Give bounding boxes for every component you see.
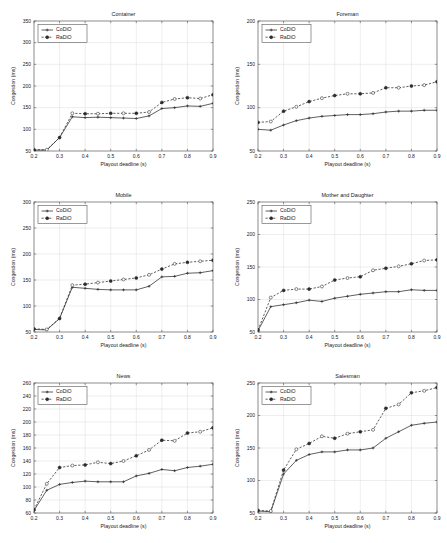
chart-title: Container bbox=[112, 11, 136, 17]
series-markers-codio bbox=[257, 288, 439, 332]
legend-label-codio: CoDiO bbox=[56, 388, 72, 394]
x-tick-label: 0.2 bbox=[255, 334, 262, 340]
series-line-codio bbox=[34, 103, 213, 150]
x-tick-label: 0.9 bbox=[210, 153, 217, 159]
x-tick-label: 0.4 bbox=[306, 334, 313, 340]
legend-label-codio: CoDiO bbox=[56, 26, 72, 32]
x-tick-label: 0.8 bbox=[408, 334, 415, 340]
plot-data bbox=[33, 93, 215, 151]
chart-legend: CoDiORaDiO bbox=[38, 25, 87, 43]
y-tick-label: 200 bbox=[23, 251, 32, 257]
chart-legend: CoDiORaDiO bbox=[38, 206, 87, 224]
legend-label-radio: RaDiO bbox=[56, 215, 72, 221]
y-tick-label: 140 bbox=[23, 458, 32, 464]
x-tick-label: 0.2 bbox=[31, 334, 38, 340]
figure-container: Container501001502002503003500.20.30.40.… bbox=[0, 0, 447, 543]
chart-panel-news: News60801001201401601802002202402600.20.… bbox=[0, 362, 223, 543]
x-tick-label: 0.5 bbox=[107, 153, 114, 159]
y-axis-label: Congestion (ms) bbox=[10, 248, 16, 286]
legend-label-radio: RaDiO bbox=[280, 215, 296, 221]
y-tick-label: 150 bbox=[23, 104, 32, 110]
chart-legend: CoDiORaDiO bbox=[262, 387, 311, 405]
x-tick-label: 0.4 bbox=[82, 153, 89, 159]
x-axis-label: Playout deadline (s) bbox=[325, 523, 371, 529]
x-tick-label: 0.9 bbox=[434, 515, 441, 521]
chart-legend: CoDiORaDiO bbox=[262, 25, 311, 43]
x-tick-label: 0.5 bbox=[331, 153, 338, 159]
series-line-radio bbox=[258, 82, 437, 123]
x-tick-label: 0.8 bbox=[184, 515, 191, 521]
x-tick-label: 0.4 bbox=[82, 515, 89, 521]
x-tick-label: 0.7 bbox=[382, 334, 389, 340]
y-tick-label: 80 bbox=[25, 497, 31, 503]
y-tick-label: 260 bbox=[23, 380, 32, 386]
y-tick-label: 200 bbox=[247, 231, 256, 237]
y-tick-label: 160 bbox=[23, 445, 32, 451]
chart-legend: CoDiORaDiO bbox=[38, 387, 87, 405]
x-tick-label: 0.6 bbox=[357, 334, 364, 340]
legend-label-radio: RaDiO bbox=[280, 396, 296, 402]
y-tick-label: 200 bbox=[23, 419, 32, 425]
x-tick-label: 0.2 bbox=[31, 515, 38, 521]
y-tick-label: 300 bbox=[23, 39, 32, 45]
x-tick-label: 0.2 bbox=[31, 153, 38, 159]
x-tick-label: 0.8 bbox=[408, 153, 415, 159]
y-tick-label: 240 bbox=[23, 393, 32, 399]
x-tick-label: 0.5 bbox=[331, 515, 338, 521]
x-tick-label: 0.3 bbox=[280, 334, 287, 340]
x-tick-label: 0.9 bbox=[210, 334, 217, 340]
series-line-radio bbox=[34, 428, 213, 510]
chart-legend: CoDiORaDiO bbox=[262, 206, 311, 224]
x-tick-label: 0.8 bbox=[184, 153, 191, 159]
plot-data bbox=[257, 386, 439, 513]
x-tick-label: 0.6 bbox=[133, 153, 140, 159]
x-tick-label: 0.2 bbox=[255, 515, 262, 521]
chart-panel-mobile: Mobile501001502002503000.20.30.40.50.60.… bbox=[0, 181, 223, 362]
y-axis-label: Congestion (ms) bbox=[234, 429, 240, 467]
legend-label-radio: RaDiO bbox=[280, 34, 296, 40]
x-tick-label: 0.6 bbox=[133, 334, 140, 340]
x-axis-label: Playout deadline (s) bbox=[325, 342, 371, 348]
chart-panel-mother_and_daughter: Mother and Daughter501001502002500.20.30… bbox=[224, 181, 447, 362]
chart-title: Mobile bbox=[115, 192, 131, 198]
x-tick-label: 0.5 bbox=[107, 334, 114, 340]
x-tick-label: 0.9 bbox=[210, 515, 217, 521]
plot-data bbox=[257, 258, 439, 332]
x-tick-label: 0.8 bbox=[408, 515, 415, 521]
y-tick-label: 350 bbox=[23, 18, 32, 24]
plot-data bbox=[33, 259, 215, 332]
legend-label-codio: CoDiO bbox=[56, 207, 72, 213]
x-axis-label: Playout deadline (s) bbox=[101, 342, 147, 348]
y-tick-label: 100 bbox=[23, 303, 32, 309]
x-tick-label: 0.3 bbox=[56, 153, 63, 159]
chart-panel-salesman: Salesman501001502002500.20.30.40.50.60.7… bbox=[224, 362, 447, 543]
x-tick-label: 0.4 bbox=[82, 334, 89, 340]
y-tick-label: 250 bbox=[23, 61, 32, 67]
x-tick-label: 0.9 bbox=[434, 334, 441, 340]
chart-title: Salesman bbox=[335, 373, 359, 379]
x-tick-label: 0.3 bbox=[56, 334, 63, 340]
y-tick-label: 120 bbox=[23, 471, 32, 477]
x-axis-label: Playout deadline (s) bbox=[101, 523, 147, 529]
y-tick-label: 200 bbox=[247, 18, 256, 24]
x-tick-label: 0.8 bbox=[184, 334, 191, 340]
x-tick-label: 0.3 bbox=[280, 153, 287, 159]
series-line-codio bbox=[34, 464, 213, 510]
chart-panel-foreman: Foreman501001502000.20.30.40.50.60.70.80… bbox=[224, 0, 447, 181]
chart-title: News bbox=[117, 373, 131, 379]
chart-panel-container: Container501001502002503003500.20.30.40.… bbox=[0, 0, 223, 181]
x-tick-label: 0.5 bbox=[107, 515, 114, 521]
y-tick-label: 100 bbox=[23, 126, 32, 132]
y-tick-label: 100 bbox=[247, 296, 256, 302]
legend-label-codio: CoDiO bbox=[280, 388, 296, 394]
legend-label-radio: RaDiO bbox=[56, 396, 72, 402]
chart-title: Foreman bbox=[336, 11, 358, 17]
plot-data bbox=[257, 80, 439, 131]
series-markers-radio bbox=[33, 93, 215, 151]
plot-data bbox=[33, 426, 215, 511]
y-tick-label: 150 bbox=[247, 264, 256, 270]
series-markers-radio bbox=[257, 80, 439, 124]
series-line-radio bbox=[34, 95, 213, 150]
y-tick-label: 100 bbox=[23, 484, 32, 490]
series-markers-codio bbox=[33, 463, 215, 512]
